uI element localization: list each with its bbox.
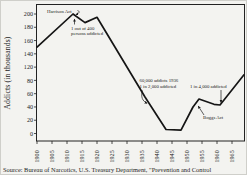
harrison-act-arrow (76, 11, 79, 15)
x-tick-label: 1965 (229, 150, 235, 162)
x-tick-label: 1950 (184, 150, 190, 162)
y-tick-label: 20 (27, 117, 33, 123)
y-tick-label: 40 (27, 104, 33, 110)
x-tick-label: 1920 (94, 150, 100, 162)
y-tick-label: 180 (24, 24, 33, 30)
annotation-60000-addicts-line2: 1 in 2,000 addicted (140, 84, 177, 90)
x-tick-label: 1955 (199, 150, 205, 162)
addiction-line-chart: 200180160140120806040200 190019051910191… (1, 1, 247, 165)
y-tick-label: 200 (24, 11, 33, 17)
addicts-trend-line (37, 14, 244, 130)
x-tick-label: 1940 (154, 150, 160, 162)
x-axis-tick-labels: 1900190519101915192019251930193519401945… (34, 141, 235, 163)
annotation-1-in-4000: 1 in 4,000 addicted (190, 84, 227, 90)
boggs-act-arrow (198, 106, 204, 115)
x-tick-label: 1935 (139, 150, 145, 162)
x-tick-label: 1915 (79, 150, 85, 162)
annotation-1-in-400-line1: 1 out of 400 (71, 26, 95, 31)
source-caption: Source: Bureau of Narcotics, U.S. Treasu… (3, 166, 211, 173)
y-tick-label: 140 (24, 51, 33, 57)
y-axis-tick-labels: 200180160140120806040200 (24, 11, 37, 137)
y-axis-title: Addicts (in thousands) (3, 36, 12, 109)
x-tick-label: 1905 (49, 150, 55, 162)
y-tick-label: 160 (24, 38, 33, 44)
annotation-1-in-400-line2: persons addicted (71, 31, 104, 36)
chart-figure: 200180160140120806040200 190019051910191… (0, 0, 247, 175)
x-tick-label: 1910 (64, 150, 70, 162)
x-tick-label: 1960 (214, 150, 220, 162)
y-tick-label: 80 (27, 78, 33, 84)
x-tick-label: 1900 (34, 150, 40, 162)
x-tick-label: 1930 (124, 150, 130, 162)
y-tick-label: 0 (30, 131, 33, 137)
annotation-boggs-act: Boggs Act (203, 115, 224, 120)
y-tick-label: 60 (27, 91, 33, 97)
x-tick-label: 1925 (109, 150, 115, 162)
annotation-harrison-act: Harrison Act (47, 9, 72, 14)
plot-border (37, 5, 245, 142)
y-tick-label: 120 (24, 64, 33, 70)
x-tick-label: 1945 (169, 150, 175, 162)
